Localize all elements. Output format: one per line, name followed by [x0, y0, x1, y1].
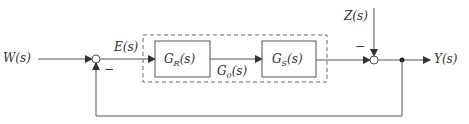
- feedback-minus-sign: −: [104, 63, 114, 75]
- g0-label: G0(s): [217, 65, 247, 80]
- summing-junction-2: [370, 56, 378, 64]
- block-diagram-canvas: [0, 0, 469, 124]
- error-label: E(s): [114, 41, 138, 53]
- summing-junction-1: [92, 55, 100, 63]
- controller-block-label: GR(s): [164, 53, 195, 68]
- output-label: Y(s): [434, 53, 457, 65]
- plant-block-label: GS(s): [272, 53, 303, 68]
- feedback-path: [96, 60, 402, 116]
- disturbance-minus-sign: −: [355, 40, 365, 52]
- disturbance-label: Z(s): [344, 10, 368, 22]
- input-label: W(s): [3, 52, 31, 64]
